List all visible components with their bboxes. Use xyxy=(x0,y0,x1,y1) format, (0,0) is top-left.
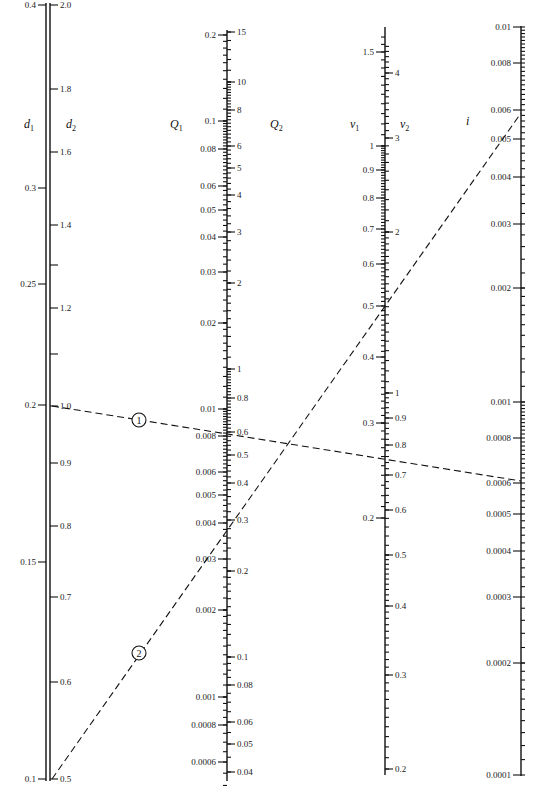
v2-tick-label: 0.7 xyxy=(395,470,407,480)
d2-tick-label: 1.4 xyxy=(60,220,72,230)
i-tick-label: 0.0003 xyxy=(486,592,511,602)
v1-tick-label: 0.2 xyxy=(363,513,374,523)
v2-tick-label: 0.5 xyxy=(395,550,407,560)
axes-layer xyxy=(46,3,521,781)
v2-tick-label: 3 xyxy=(395,133,400,143)
i-tick-label: 0.0002 xyxy=(486,658,511,668)
v2-tick-label: 1 xyxy=(395,388,400,398)
minor-ticks-layer xyxy=(223,27,525,785)
v1-tick-label: 0.9 xyxy=(363,165,375,175)
i-axis: 0.010.0080.0060.0050.0040.0030.0020.0010… xyxy=(486,22,521,780)
axis-name-Q1: Q1 xyxy=(170,117,183,133)
v1-tick-label: 0.4 xyxy=(363,352,375,362)
v2-tick-label: 0.3 xyxy=(395,670,407,680)
Q1-tick-label: 0.2 xyxy=(205,30,216,40)
Q1-tick-label: 0.01 xyxy=(200,404,216,414)
Q2-tick-label: 0.08 xyxy=(237,680,253,690)
i-tick-label: 0.006 xyxy=(491,105,512,115)
Q1-tick-label: 0.001 xyxy=(196,692,216,702)
i-tick-label: 0.01 xyxy=(495,22,511,32)
i-tick-label: 0.003 xyxy=(491,219,512,229)
Q1-tick-label: 0.06 xyxy=(200,181,216,191)
v1-tick-label: 0.8 xyxy=(363,193,375,203)
Q1-tick-label: 0.1 xyxy=(205,116,216,126)
isopleth-marker: 2 xyxy=(132,646,146,660)
Q2-tick-label: 0.05 xyxy=(237,739,253,749)
v2-axis: 43210.90.80.70.60.50.40.30.2 xyxy=(385,68,407,774)
v2-tick-label: 0.9 xyxy=(395,413,407,423)
Q2-tick-label: 0.06 xyxy=(237,717,253,727)
i-tick-label: 0.001 xyxy=(491,397,511,407)
axis-name-v2: v2 xyxy=(400,117,409,133)
i-tick-label: 0.0005 xyxy=(486,509,511,519)
isopleth-1: 1 xyxy=(52,406,521,481)
v1-tick-label: 1.5 xyxy=(363,47,375,57)
axis-name-Q2: Q2 xyxy=(270,117,283,133)
nomogram: 0.40.30.250.20.150.12.01.81.61.41.21.00.… xyxy=(0,0,547,802)
Q1-tick-label: 0.006 xyxy=(196,467,217,477)
isopleth-marker: 1 xyxy=(132,413,146,427)
axis-name-d2: d2 xyxy=(66,117,76,133)
v2-tick-label: 2 xyxy=(395,227,400,237)
Q2-tick-label: 4 xyxy=(237,190,242,200)
Q1-tick-label: 0.0006 xyxy=(191,757,216,767)
Q2-tick-label: 6 xyxy=(237,141,242,151)
Q1-tick-label: 0.002 xyxy=(196,605,216,615)
v1-tick-label: 0.7 xyxy=(363,224,375,234)
d2-tick-label: 1.8 xyxy=(60,84,72,94)
v2-tick-label: 0.2 xyxy=(395,764,406,774)
Q1-tick-label: 0.05 xyxy=(200,205,216,215)
d1-tick-label: 0.4 xyxy=(25,0,37,10)
v2-tick-label: 0.4 xyxy=(395,601,407,611)
i-tick-label: 0.0008 xyxy=(486,433,511,443)
d1-tick-label: 0.1 xyxy=(25,774,36,784)
d1-tick-label: 0.2 xyxy=(25,400,36,410)
v1-axis: 1.510.90.80.70.60.50.40.30.2 xyxy=(363,47,385,523)
i-tick-label: 0.004 xyxy=(491,172,512,182)
Q2-tick-label: 0.8 xyxy=(237,393,249,403)
Q2-tick-label: 3 xyxy=(237,227,242,237)
axis-name-i: i xyxy=(466,114,469,128)
isopleth-line xyxy=(52,406,521,481)
d1-tick-label: 0.25 xyxy=(20,279,36,289)
Q2-tick-label: 2 xyxy=(237,278,242,288)
Q1-tick-label: 0.004 xyxy=(196,518,217,528)
i-tick-label: 0.005 xyxy=(491,134,512,144)
v1-tick-label: 0.6 xyxy=(363,259,375,269)
Q1-axis: 0.20.10.080.060.050.040.030.020.010.0080… xyxy=(191,30,227,767)
Q2-tick-label: 0.4 xyxy=(237,478,249,488)
d2-tick-label: 0.7 xyxy=(60,592,72,602)
d2-tick-label: 0.9 xyxy=(60,458,72,468)
axis-names-layer: d1d2Q1Q2v1v2i xyxy=(24,114,469,133)
i-tick-label: 0.002 xyxy=(491,283,511,293)
isopleth-line xyxy=(52,113,521,779)
d2-tick-label: 0.8 xyxy=(60,521,72,531)
isopleths-layer: 12 xyxy=(52,113,521,779)
Q2-tick-label: 10 xyxy=(237,77,247,87)
axis-name-d1: d1 xyxy=(24,117,34,133)
axis-name-v1: v1 xyxy=(350,117,359,133)
Q2-tick-label: 15 xyxy=(237,27,247,37)
d2-tick-label: 1.0 xyxy=(60,401,72,411)
Q2-tick-label: 5 xyxy=(237,163,242,173)
Q1-tick-label: 0.02 xyxy=(200,318,216,328)
d2-tick-label: 0.5 xyxy=(60,774,72,784)
v1-tick-label: 1 xyxy=(370,141,375,151)
Q1-tick-label: 0.008 xyxy=(196,431,217,441)
svg-text:2: 2 xyxy=(137,648,142,659)
Q2-tick-label: 1 xyxy=(237,364,242,374)
Q2-tick-label: 0.04 xyxy=(237,767,253,777)
v1-tick-label: 0.3 xyxy=(363,418,375,428)
Q2-tick-label: 8 xyxy=(237,105,242,115)
v1-tick-label: 0.5 xyxy=(363,301,375,311)
d1-tick-label: 0.15 xyxy=(20,557,36,567)
i-tick-label: 0.0006 xyxy=(486,478,511,488)
d2-tick-label: 2.0 xyxy=(60,0,72,10)
d1-tick-label: 0.3 xyxy=(25,183,37,193)
Q1-tick-label: 0.03 xyxy=(200,267,216,277)
Q1-tick-label: 0.04 xyxy=(200,232,216,242)
i-tick-label: 0.0001 xyxy=(486,770,511,780)
Q2-tick-label: 0.2 xyxy=(237,566,248,576)
v2-tick-label: 0.6 xyxy=(395,505,407,515)
d2-tick-label: 1.2 xyxy=(60,303,71,313)
